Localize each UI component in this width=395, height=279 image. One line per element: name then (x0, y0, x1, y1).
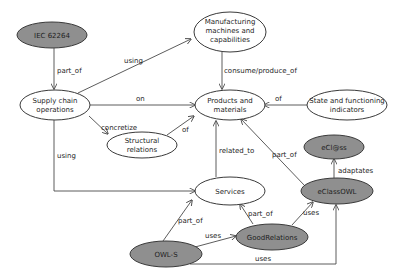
edge-label-uses: uses (255, 255, 271, 263)
edge-label-uses: uses (205, 232, 221, 240)
node-label: GoodRelations (247, 234, 298, 242)
edge-supply-structural: concretize (89, 116, 137, 134)
edge-iec-supply: part_of (54, 48, 82, 89)
node-manufacturing[interactable]: Manufacturing machines and capabilities (194, 12, 266, 52)
node-iec-62264[interactable]: IEC 62264 (17, 22, 87, 48)
edge-label-using: using (57, 152, 76, 160)
node-eclassowl[interactable]: eClassOWL (301, 178, 373, 204)
edge-label-part-of: part_of (57, 67, 82, 75)
node-label: OWL-S (154, 251, 178, 259)
node-owl-s[interactable]: OWL-S (130, 241, 202, 267)
node-label: indicators (330, 106, 365, 114)
node-label: operations (36, 106, 74, 114)
node-label: Structural (125, 137, 160, 145)
edge-label-on: on (136, 95, 145, 103)
ontology-diagram: part_of using consume/produce_of on of c… (0, 0, 395, 279)
node-label: Supply chain (32, 97, 77, 105)
edge-manufacturing-products: consume/produce_of (222, 52, 297, 89)
edge-label-part-of: part_of (248, 210, 273, 218)
node-label: capabilities (210, 36, 250, 44)
edge-label-adaptates: adaptates (338, 167, 374, 175)
edge-label-of: of (182, 126, 189, 134)
edge-label-related-to: related_to (219, 147, 254, 155)
node-structural-relations[interactable]: Structural relations (107, 132, 177, 158)
node-label: eClassOWL (317, 188, 356, 196)
edge-services-products: related_to (216, 121, 254, 177)
edge-label-consume-produce-of: consume/produce_of (224, 67, 297, 75)
edge-state-products: of (264, 95, 307, 105)
node-eclass[interactable]: eCl@ss (304, 135, 364, 159)
edge-label-part-of: part_of (272, 151, 297, 159)
edge-goodrelations-eclassowl: uses (292, 202, 319, 225)
node-label: Manufacturing (205, 18, 256, 26)
edge-structural-products: of (167, 116, 194, 135)
edge-label-part-of: part_of (178, 217, 203, 225)
edge-owls-goodrelations: uses (195, 232, 236, 247)
node-state-functioning-indicators[interactable]: State and functioning indicators (307, 90, 387, 120)
node-label: eCl@ss (321, 144, 347, 152)
node-label: IEC 62264 (34, 32, 70, 40)
node-label: Products and (207, 97, 253, 105)
node-label: Services (215, 188, 245, 196)
node-services[interactable]: Services (195, 177, 265, 205)
edge-goodrelations-services: part_of (240, 204, 273, 224)
node-label: materials (214, 106, 247, 114)
edge-label-of: of (275, 95, 282, 103)
node-label: State and functioning (309, 97, 385, 105)
edge-label-using: using (124, 57, 143, 65)
node-goodrelations[interactable]: GoodRelations (236, 224, 308, 250)
node-label: machines and (205, 27, 254, 35)
node-products-materials[interactable]: Products and materials (195, 90, 265, 120)
nodes: IEC 62264 Manufacturing machines and cap… (17, 12, 387, 267)
edge-label-concretize: concretize (101, 124, 137, 132)
edge-label-uses: uses (303, 209, 319, 217)
edge-supply-manufacturing: using (78, 39, 191, 93)
node-supply-chain-operations[interactable]: Supply chain operations (20, 90, 90, 120)
edge-eclassowl-eclass: adaptates (334, 159, 374, 178)
edge-owls-services: part_of (163, 200, 203, 241)
edge-supply-products: on (90, 95, 195, 105)
node-label: relations (127, 146, 158, 154)
